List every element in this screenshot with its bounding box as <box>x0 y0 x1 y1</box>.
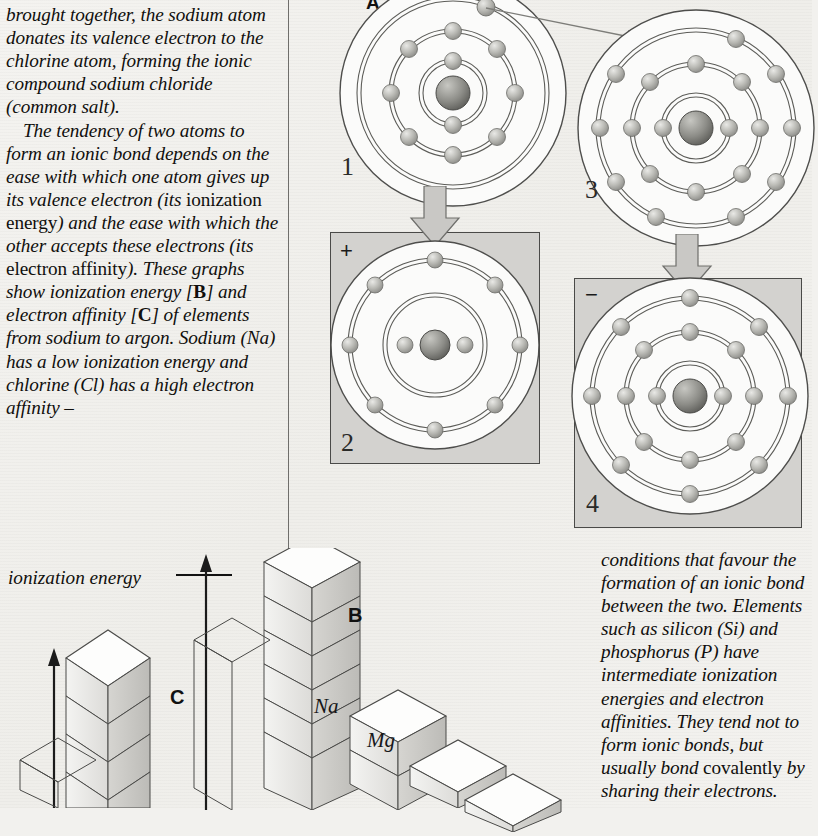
bar-label-mg: Mg <box>367 728 395 753</box>
atom-1-number: 1 <box>341 152 354 182</box>
inline-label-c: C <box>138 304 152 325</box>
bar-c-column <box>66 630 150 808</box>
atom-3-number: 3 <box>585 175 598 205</box>
chart-b-letter: B <box>348 604 362 627</box>
right-paragraph: conditions that favour the formation of … <box>601 548 813 802</box>
atom-3-chlorine <box>568 8 818 248</box>
bar-si-block <box>455 772 575 836</box>
right-text-column: conditions that favour the formation of … <box>601 548 813 802</box>
right-text-part-a: conditions that favour the formation of … <box>601 549 804 778</box>
paragraph-two: The tendency of two atoms to form an ion… <box>6 119 281 419</box>
paragraph-one-rest: are brought together, the sodium atom do… <box>6 0 266 117</box>
paragraph-one: When sodium and chlorine are brought tog… <box>6 0 281 119</box>
ionization-energy-caption: ionization energy <box>8 567 141 589</box>
atom-4-number: 4 <box>586 489 599 519</box>
chart-c-electron-affinity <box>18 612 218 812</box>
bar-label-na: Na <box>314 694 339 719</box>
atom-2-number: 2 <box>341 428 354 458</box>
lead-sentence: When sodium and chlorine <box>6 0 218 2</box>
inline-label-b: B <box>193 281 206 302</box>
sodium-ion-charge-sign: + <box>340 240 353 262</box>
chart-c-letter: C <box>170 686 184 709</box>
chloride-ion-charge-sign: − <box>585 284 598 306</box>
left-text-column: When sodium and chlorine are brought tog… <box>6 0 281 419</box>
term-electron-affinity: electron affinity <box>6 258 127 279</box>
term-covalently: covalently <box>703 757 782 778</box>
atom-2-sodium-ion <box>320 222 550 472</box>
bar-na <box>264 548 360 810</box>
atom-4-chloride-ion <box>562 266 812 528</box>
column-divider-rule <box>288 0 289 562</box>
